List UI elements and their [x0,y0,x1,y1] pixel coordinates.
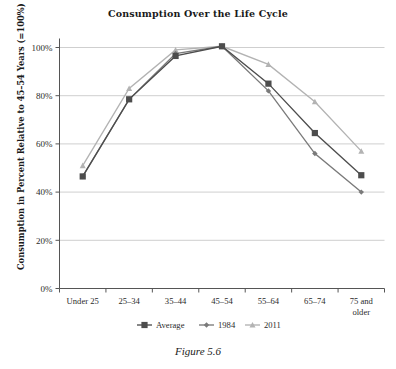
y-tick-label: 60% [36,139,53,149]
data-point-square [312,130,318,136]
data-point-square [126,96,132,102]
y-tick-label: 0% [41,284,54,294]
figure-caption: Figure 5.6 [0,345,396,357]
data-point-square [358,172,364,178]
legend-label: 1984 [218,320,236,330]
x-tick-label: 55–64 [258,296,280,306]
y-tick-label: 100% [32,43,54,53]
line-chart-svg: 0%20%40%60%80%100%Under 2525–3435–4445–5… [0,0,396,369]
legend-label: 2011 [264,320,281,330]
y-tick-label: 40% [36,187,53,197]
legend-item-1984[interactable]: 1984 [199,320,236,330]
data-point-triangle [80,163,86,169]
y-tick-label: 80% [36,91,53,101]
series-line [83,46,362,192]
plot-area: 0%20%40%60%80%100%Under 2525–3435–4445–5… [0,0,396,369]
data-point-square [80,173,86,179]
x-tick-label: 35–44 [165,296,187,306]
legend-item-average[interactable]: Average [137,320,185,330]
x-tick-label: older [352,307,370,317]
data-point-square [219,43,225,49]
x-tick-label: 65–74 [304,296,326,306]
x-axis: Under 2525–3435–4445–5455–6465–7475 ando… [60,289,385,317]
x-tick-label: 75 and [350,296,374,306]
series-1984 [80,44,364,195]
data-point-square [141,322,147,328]
data-point-square [172,53,178,59]
figure-container: Consumption Over the Life Cycle Consumpt… [0,0,396,369]
legend-item-2011[interactable]: 2011 [245,320,281,330]
legend-label: Average [156,320,185,330]
x-tick-label: 25–34 [118,296,140,306]
x-tick-label: Under 25 [67,296,99,306]
series-2011 [80,43,365,168]
data-point-square [265,81,271,87]
x-tick-label: 45–54 [211,296,233,306]
legend: Average19842011 [137,320,281,330]
y-tick-label: 20% [36,236,53,246]
data-point-diamond [204,322,209,327]
